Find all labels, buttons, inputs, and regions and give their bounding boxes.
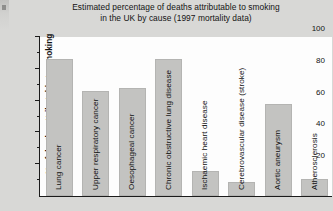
y-tick-major	[35, 68, 40, 69]
y-tick-minor	[37, 179, 40, 180]
chart-title-line-2: in the UK by cause (1997 mortality data)	[26, 13, 326, 24]
y-tick-major	[35, 163, 40, 164]
bar-category-label: Atherosclerosis	[310, 133, 319, 190]
y-tick-minor	[37, 116, 40, 117]
bar-category-label: Ischaemic heart disease	[200, 100, 209, 190]
bar-category-label: Aortic aneurysm	[273, 130, 282, 190]
bar-category-label: Upper respiratory cancer	[91, 99, 100, 190]
y-tick-label: 60	[316, 87, 325, 96]
y-tick-major	[35, 36, 40, 37]
y-tick-label: 100	[312, 24, 325, 33]
y-tick-major	[35, 131, 40, 132]
bar-category-label: Cerebrovascular disease (stroke)	[237, 68, 246, 190]
chart-title: Estimated percentage of deaths attributa…	[26, 2, 326, 23]
y-tick-minor	[37, 147, 40, 148]
plot-area: % of deaths attributable to smoking 1008…	[39, 37, 332, 197]
y-tick-label: 80	[316, 55, 325, 64]
bar-chart-figure: Estimated percentage of deaths attributa…	[0, 0, 333, 211]
bar-category-label: Lung cancer	[54, 144, 63, 190]
y-tick-minor	[37, 52, 40, 53]
y-tick-major	[35, 100, 40, 101]
chart-title-line-1: Estimated percentage of deaths attributa…	[26, 2, 326, 13]
y-tick-label: 40	[316, 119, 325, 128]
bar-category-label: Chronic obstructive lung disease	[164, 70, 173, 190]
y-tick-minor	[37, 84, 40, 85]
bar-category-label: Oesophageal cancer	[127, 114, 136, 191]
